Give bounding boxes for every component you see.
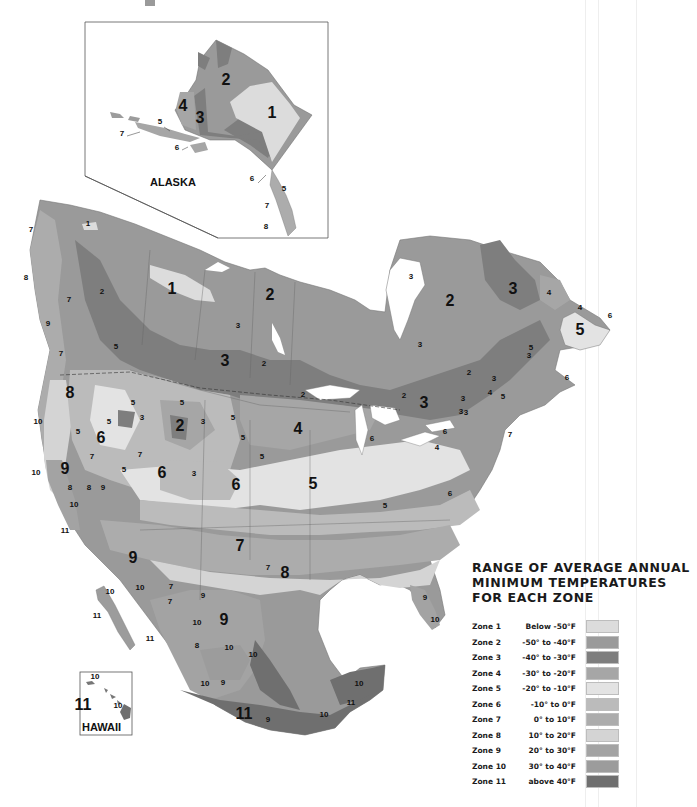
zone-label: 10 [32, 468, 41, 477]
zone-label: 1 [268, 104, 277, 121]
zone-label: 5 [131, 398, 136, 407]
zone-label: 3 [221, 352, 230, 369]
zone-label: 7 [168, 597, 173, 606]
legend-temp-range: 30° to 40°F [512, 762, 576, 771]
zone-label: 7 [138, 450, 143, 459]
zone-label: 3 [464, 408, 469, 417]
legend-swatch [586, 651, 619, 664]
legend-swatch [586, 744, 619, 757]
zone-label: 9 [201, 591, 206, 600]
zone-label: 2 [301, 390, 306, 399]
zone-label: 3 [492, 374, 497, 383]
legend-row: Zone 810° to 20°F [472, 728, 692, 744]
legend-zone-name: Zone 8 [472, 731, 512, 740]
zone-label: 6 [370, 434, 375, 443]
legend-row: Zone 6-10° to 0°F [472, 697, 692, 713]
zone-label: 9 [101, 483, 106, 492]
zone-label: 9 [221, 678, 226, 687]
zone-label: 2 [446, 292, 455, 309]
zone-label: 9 [46, 319, 51, 328]
zone-label: 2 [222, 71, 231, 88]
legend-zone-name: Zone 6 [472, 700, 512, 709]
zone-label: 9 [266, 715, 271, 724]
legend-zone-name: Zone 4 [472, 669, 512, 678]
zone-label: 8 [24, 273, 29, 282]
legend-swatch [586, 667, 619, 680]
zone-label: 3 [409, 272, 414, 281]
zone-label: 7 [169, 582, 174, 591]
zone-label: 3 [509, 280, 518, 297]
legend-row: Zone 1Below -50°F [472, 619, 692, 635]
zone-label: 2 [176, 417, 185, 434]
zone-label: 11 [146, 634, 155, 643]
zone-label: 1 [168, 280, 177, 297]
legend-row: Zone 2-50° to -40°F [472, 635, 692, 651]
zone-label: 7 [120, 129, 125, 138]
zone-label: 10 [225, 643, 234, 652]
zone-label: 5 [114, 342, 119, 351]
zone-label: 11 [93, 611, 102, 620]
zone-label: 6 [158, 464, 167, 481]
legend-row: Zone 70° to 10°F [472, 712, 692, 728]
zone-label: 5 [76, 427, 81, 436]
legend-row: Zone 1030° to 40°F [472, 759, 692, 775]
zone-label: 10 [70, 500, 79, 509]
zone-label: 8 [281, 564, 290, 581]
legend-zone-name: Zone 1 [472, 622, 512, 631]
zone-label: 10 [249, 650, 258, 659]
zone-label: 8 [68, 483, 73, 492]
zone-label: 5 [180, 398, 185, 407]
zone-label: 2 [266, 286, 275, 303]
legend-title: RANGE OF AVERAGE ANNUAL MINIMUM TEMPERAT… [472, 560, 692, 605]
zone-label: 10 [106, 587, 115, 596]
legend-temp-range: -50° to -40°F [512, 638, 576, 647]
legend-temp-range: -20° to -10°F [512, 684, 576, 693]
zone-label: 4 [488, 388, 493, 397]
zone-label: 6 [443, 427, 448, 436]
zone-label: 2 [467, 368, 472, 377]
zone-label: 3 [192, 469, 197, 478]
zone-label: 1 [86, 219, 91, 228]
legend-temp-range: -10° to 0°F [512, 700, 576, 709]
zone-label: 3 [420, 394, 429, 411]
zone-label: 5 [231, 413, 236, 422]
zone-label: 5 [309, 475, 318, 492]
zone-label: 4 [435, 443, 440, 452]
alaska-label: ALASKA [150, 176, 196, 188]
zone-label: 7 [90, 452, 95, 461]
zone-label: 7 [67, 295, 72, 304]
legend-temp-range: -30° to -20°F [512, 669, 576, 678]
legend-swatch [586, 729, 619, 742]
zone-label: 7 [508, 430, 513, 439]
zone-label: 6 [565, 373, 570, 382]
legend-zone-name: Zone 5 [472, 684, 512, 693]
zone-label: 6 [97, 429, 106, 446]
zone-label: 11 [347, 698, 356, 707]
zone-label: 4 [547, 288, 552, 297]
zone-label: 5 [383, 501, 388, 510]
legend-temp-range: Below -50°F [512, 622, 576, 631]
zone-label: 4 [294, 420, 303, 437]
legend-swatch [586, 713, 619, 726]
zone-label: 5 [107, 417, 112, 426]
zone-label: 10 [34, 417, 43, 426]
zone-label: 2 [262, 359, 267, 368]
zone-label: 6 [608, 311, 613, 320]
legend-swatch [586, 760, 619, 773]
zone-label: 5 [282, 184, 287, 193]
zone-label: 9 [423, 593, 428, 602]
zone-label: 10 [431, 615, 440, 624]
zone-label: 5 [158, 117, 163, 126]
legend-row: Zone 4-30° to -20°F [472, 666, 692, 682]
zone-label: 8 [66, 384, 75, 401]
legend-zone-name: Zone 2 [472, 638, 512, 647]
zone-label: 11 [61, 526, 70, 535]
page-tab-marker [145, 0, 155, 6]
legend-rows: Zone 1Below -50°FZone 2-50° to -40°FZone… [472, 619, 692, 790]
zone-label: 5 [576, 321, 585, 338]
legend-temp-range: -40° to -30°F [512, 653, 576, 662]
zone-label: 3 [196, 109, 205, 126]
zone-label: 4 [578, 303, 583, 312]
zone-label: 7 [265, 201, 270, 210]
zone-label: 7 [236, 537, 245, 554]
